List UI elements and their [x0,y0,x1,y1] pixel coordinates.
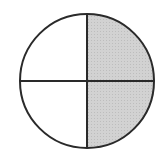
fraction-circle-diagram [0,0,165,155]
